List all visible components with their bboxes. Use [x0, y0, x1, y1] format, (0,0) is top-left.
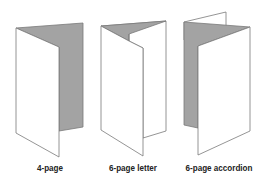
label-4-page: 4-page — [25, 160, 76, 176]
fold-diagrams — [0, 0, 270, 184]
front-panel — [16, 28, 59, 157]
four-page-fold — [16, 23, 83, 157]
six-page-accordion-fold — [184, 12, 250, 155]
label-6-page-accordion: 6-page accordion — [177, 160, 262, 176]
label-6-page-letter: 6-page letter — [99, 160, 167, 176]
front-left-panel — [101, 26, 143, 156]
front-panel — [198, 27, 250, 155]
six-page-letter-fold — [101, 21, 166, 156]
